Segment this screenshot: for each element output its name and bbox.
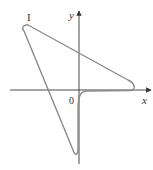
parametric-curve-diagram: I y 0 x xyxy=(0,0,153,170)
panel-label: I xyxy=(27,11,31,23)
curve xyxy=(23,25,135,155)
origin-label: 0 xyxy=(69,95,74,106)
x-axis-label: x xyxy=(141,94,147,106)
y-axis-label: y xyxy=(68,9,74,21)
